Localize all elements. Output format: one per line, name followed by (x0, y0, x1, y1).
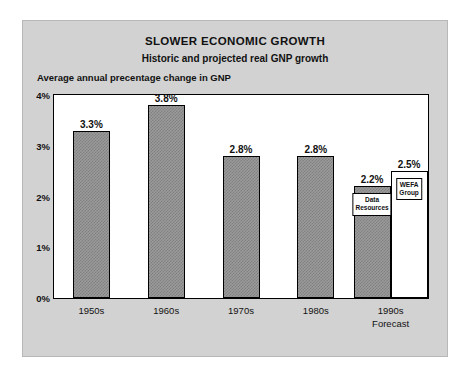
bar-source-tag: WEFAGroup (396, 178, 422, 200)
y-axis-tick: 2% (36, 191, 50, 202)
x-axis-tick: 1960s (153, 305, 179, 316)
x-axis-tick: 1990sForecast (372, 305, 409, 329)
x-axis-tick: 1980s (303, 305, 329, 316)
bar: 3.8% (148, 105, 185, 298)
bar-value-label: 3.8% (155, 93, 178, 104)
bar-value-label: 2.8% (304, 144, 327, 155)
plot-frame: 0%1%2%3%4%3.3%1950s3.8%1960s2.8%1970s2.8… (53, 94, 429, 299)
bar: 2.2%DataResources (354, 186, 391, 298)
chart-title: SLOWER ECONOMIC GROWTH (23, 35, 447, 47)
y-axis-label: Average annual precentage change in GNP (37, 72, 231, 83)
plot-area: 0%1%2%3%4%3.3%1950s3.8%1960s2.8%1970s2.8… (54, 95, 428, 298)
bar-value-label: 2.8% (230, 144, 253, 155)
bar-value-label: 2.5% (398, 159, 421, 170)
bar: 2.8% (297, 156, 334, 298)
bar-value-label: 2.2% (361, 174, 384, 185)
y-axis-tick: 1% (36, 242, 50, 253)
bar-value-label: 3.3% (80, 119, 103, 130)
bar-source-tag: DataResources (352, 193, 391, 215)
x-axis-tick: 1970s (228, 305, 254, 316)
y-axis-tick: 0% (36, 293, 50, 304)
y-axis-tick: 4% (36, 90, 50, 101)
chart-card: SLOWER ECONOMIC GROWTH Historic and proj… (22, 20, 448, 357)
chart-subtitle: Historic and projected real GNP growth (23, 53, 447, 64)
y-axis-tick: 3% (36, 140, 50, 151)
bar: 2.5%WEFAGroup (391, 171, 428, 298)
bar: 2.8% (223, 156, 260, 298)
x-axis-tick-sublabel: Forecast (372, 318, 409, 329)
bar: 3.3% (73, 131, 110, 298)
x-axis-tick: 1950s (78, 305, 104, 316)
